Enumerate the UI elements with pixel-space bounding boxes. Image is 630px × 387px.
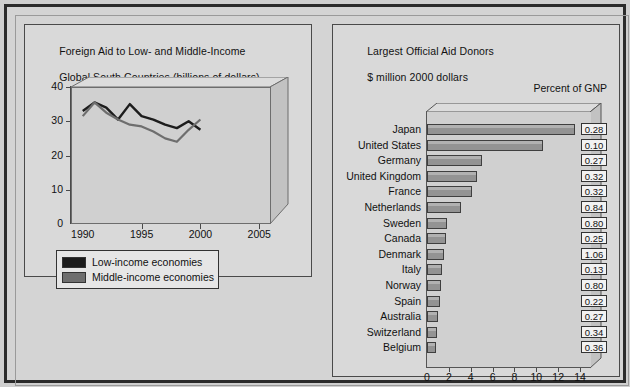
bar xyxy=(427,233,446,244)
gnp-value-box: 0.22 xyxy=(581,295,607,307)
bar-category-label: France xyxy=(388,185,421,197)
line-chart-y-tick-label: 30 xyxy=(41,114,63,126)
percent-of-gnp-header: Percent of GNP xyxy=(533,82,607,94)
line-chart-x-tick xyxy=(142,224,143,229)
bar-chart-x-tick-label: 4 xyxy=(461,371,481,383)
legend-swatch-low-income xyxy=(62,257,86,268)
outer-frame: Foreign Aid to Low- and Middle-Income Gl… xyxy=(4,4,626,383)
plot-side-bevel xyxy=(270,77,289,225)
line-series-2 xyxy=(83,102,201,141)
gnp-value-box: 0.27 xyxy=(581,310,607,322)
bar-chart-x-tick-label: 14 xyxy=(570,371,590,383)
line-chart-y-tick-label: 0 xyxy=(41,217,63,229)
bar-category-label: Spain xyxy=(394,295,421,307)
bar xyxy=(427,171,477,182)
line-chart-panel: Foreign Aid to Low- and Middle-Income Gl… xyxy=(24,24,312,277)
line-chart-plot-area xyxy=(71,77,289,224)
figure-root: Foreign Aid to Low- and Middle-Income Gl… xyxy=(0,0,630,387)
line-chart-legend: Low-income economies Middle-income econo… xyxy=(56,250,219,289)
bar-category-label: Belgium xyxy=(383,341,421,353)
gnp-value-box: 0.80 xyxy=(581,217,607,229)
bar-chart-panel: Largest Official Aid Donors $ million 20… xyxy=(332,24,620,377)
bar-category-label: Sweden xyxy=(383,217,421,229)
line-chart-series-layer xyxy=(71,87,271,224)
gnp-value-box: 0.32 xyxy=(581,170,607,182)
line-chart-y-tick-label: 40 xyxy=(41,80,63,92)
bar-category-label: Netherlands xyxy=(364,201,421,213)
gnp-value-box: 0.32 xyxy=(581,185,607,197)
gnp-value-box: 1.06 xyxy=(581,248,607,260)
bar-chart-x-tick-label: 12 xyxy=(548,371,568,383)
bar xyxy=(427,186,472,197)
line-chart-y-tick xyxy=(66,156,71,157)
bar-category-label: Norway xyxy=(385,279,421,291)
line-chart-y-tick-label: 10 xyxy=(41,183,63,195)
bar xyxy=(427,140,543,151)
gnp-value-box: 0.25 xyxy=(581,232,607,244)
gnp-value-box: 0.13 xyxy=(581,263,607,275)
bar xyxy=(427,296,440,307)
legend-label-middle-income: Middle-income economies xyxy=(92,271,214,283)
bar xyxy=(427,342,436,353)
bar-chart-plot-area xyxy=(426,103,602,368)
line-chart-x-tick-label: 1995 xyxy=(122,228,162,240)
bar xyxy=(427,249,444,260)
line-chart-x-tick xyxy=(200,224,201,229)
line-chart-y-tick xyxy=(66,121,71,122)
bar xyxy=(427,327,437,338)
bar-category-label: Switzerland xyxy=(367,326,421,338)
gnp-value-box: 0.80 xyxy=(581,279,607,291)
bar-category-label: Japan xyxy=(392,123,421,135)
bar xyxy=(427,280,441,291)
gnp-value-box: 0.84 xyxy=(581,201,607,213)
legend-swatch-middle-income xyxy=(62,272,86,283)
line-chart-y-tick-label: 20 xyxy=(41,149,63,161)
bar-chart-x-tick-label: 6 xyxy=(483,371,503,383)
bar-category-label: United Kingdom xyxy=(346,170,421,182)
bar-category-label: Canada xyxy=(384,232,421,244)
bar xyxy=(427,155,482,166)
bar-category-label: United States xyxy=(358,139,421,151)
gnp-value-box: 0.28 xyxy=(581,123,607,135)
gnp-value-box: 0.36 xyxy=(581,341,607,353)
line-chart-x-tick-label: 1990 xyxy=(63,228,103,240)
bar xyxy=(427,202,461,213)
gnp-value-box: 0.10 xyxy=(581,139,607,151)
gnp-value-box: 0.27 xyxy=(581,154,607,166)
line-chart-y-tick xyxy=(66,190,71,191)
bar-chart-title-line2: $ million 2000 dollars xyxy=(367,71,468,83)
bar-chart-x-tick-label: 0 xyxy=(417,371,437,383)
gnp-value-box: 0.34 xyxy=(581,326,607,338)
bar xyxy=(427,311,438,322)
bar-category-label: Italy xyxy=(402,263,421,275)
bar-category-label: Germany xyxy=(378,154,421,166)
bar-chart-x-tick-label: 8 xyxy=(504,371,524,383)
bar-chart-title: Largest Official Aid Donors $ million 20… xyxy=(343,32,494,97)
bar-chart-title-line1: Largest Official Aid Donors xyxy=(367,45,494,57)
bar-chart-x-tick-label: 2 xyxy=(439,371,459,383)
line-chart-x-tick-label: 2000 xyxy=(180,228,220,240)
line-chart-x-tick-label: 2005 xyxy=(239,228,279,240)
bar xyxy=(427,218,447,229)
line-chart-x-tick xyxy=(259,224,260,229)
line-chart-title-line1: Foreign Aid to Low- and Middle-Income xyxy=(59,45,245,57)
legend-label-low-income: Low-income economies xyxy=(92,256,202,268)
bar-category-label: Denmark xyxy=(378,248,421,260)
bar xyxy=(427,264,442,275)
bar xyxy=(427,124,575,135)
bar-category-label: Australia xyxy=(380,310,421,322)
line-chart-y-tick xyxy=(66,87,71,88)
bar-chart-x-tick-label: 10 xyxy=(526,371,546,383)
